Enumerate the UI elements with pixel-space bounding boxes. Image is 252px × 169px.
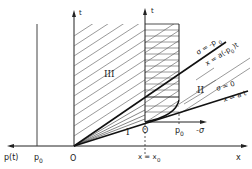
svg-text:0: 0: [39, 157, 43, 164]
p0-main-label: p 0: [34, 153, 43, 164]
arrow-up-icon: [72, 10, 76, 17]
region-II-label: II: [197, 85, 205, 95]
region-III-label: III: [104, 69, 115, 79]
main-x-axis: [7, 144, 248, 148]
p-of-t-label: p(t): [4, 153, 18, 162]
x-axis-label: x: [236, 153, 241, 162]
origin-label: O: [70, 154, 76, 163]
svg-text:σ = 0: σ = 0: [215, 80, 236, 93]
p0-inner-label: p 0: [175, 126, 184, 137]
neg-sigma-label: -σ: [196, 126, 205, 135]
region-III-hatching: [74, 0, 160, 136]
arrow-right-icon: [241, 144, 248, 148]
inner-t-label: t: [151, 7, 154, 15]
main-t-label: t: [79, 9, 82, 17]
arrow-left-icon: [7, 144, 14, 148]
characteristics-diagram: x p(t) t O p 0 t O p 0 -σ x = x 0 I II I…: [0, 0, 252, 169]
rect-hatched-region: [140, 16, 186, 126]
arrow-right-icon: [200, 120, 207, 124]
fan-lines: [74, 104, 145, 146]
main-t-axis: [72, 10, 76, 146]
svg-text:0: 0: [157, 157, 161, 163]
svg-text:0: 0: [180, 130, 184, 137]
sigma-zero-annotation: σ = 0: [215, 80, 236, 93]
inner-origin-label: O: [142, 126, 148, 135]
svg-text:x = x: x = x: [138, 153, 157, 161]
arrow-up-icon: [143, 8, 147, 15]
svg-text:x = a t: x = a t: [222, 89, 247, 104]
region-I-label: I: [126, 127, 130, 137]
x-eq-a-bar-t-annotation: x = a t: [222, 89, 247, 104]
x-eq-x0-label: x = x 0: [138, 153, 161, 163]
